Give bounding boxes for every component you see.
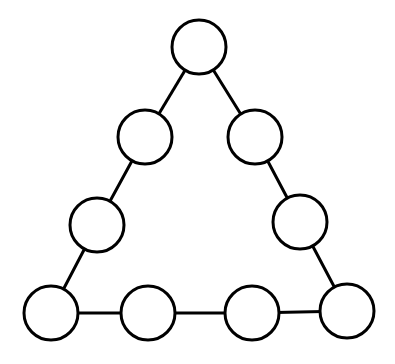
node-bottom-right[interactable]: [320, 284, 374, 338]
node-right-lower[interactable]: [273, 195, 327, 249]
node-bottom-mid-2[interactable]: [225, 286, 279, 340]
node-circle[interactable]: [121, 286, 175, 340]
node-circle[interactable]: [70, 198, 124, 252]
node-bottom-left[interactable]: [24, 286, 78, 340]
node-top[interactable]: [172, 20, 226, 74]
node-left-lower[interactable]: [70, 198, 124, 252]
node-circle[interactable]: [228, 110, 282, 164]
node-circle[interactable]: [118, 110, 172, 164]
node-circle[interactable]: [225, 286, 279, 340]
node-circle[interactable]: [273, 195, 327, 249]
node-circle[interactable]: [172, 20, 226, 74]
node-circle[interactable]: [320, 284, 374, 338]
nodes-layer: [24, 20, 374, 340]
node-left-upper[interactable]: [118, 110, 172, 164]
node-bottom-mid-1[interactable]: [121, 286, 175, 340]
node-right-upper[interactable]: [228, 110, 282, 164]
edges-layer: [51, 47, 347, 313]
triangle-diagram: [0, 0, 395, 364]
node-circle[interactable]: [24, 286, 78, 340]
